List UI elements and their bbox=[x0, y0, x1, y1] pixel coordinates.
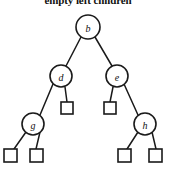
node-h-label: h bbox=[143, 120, 148, 131]
binary-tree-svg: b d e g h bbox=[0, 0, 176, 186]
edge-g-leaf-left bbox=[14, 132, 26, 149]
node-h: h bbox=[134, 113, 156, 135]
leaf-node-h-left bbox=[118, 149, 131, 162]
node-d: d bbox=[50, 65, 72, 87]
leaf-node-d-right bbox=[61, 102, 73, 114]
internal-nodes-group: b d e g h bbox=[22, 15, 156, 135]
edge-h-leaf-left bbox=[127, 132, 138, 149]
leaf-node-h-right bbox=[149, 149, 162, 162]
node-e: e bbox=[106, 65, 128, 87]
edge-e-h bbox=[124, 84, 138, 115]
leaf-node-e-left bbox=[104, 102, 116, 114]
node-b: b bbox=[76, 15, 100, 39]
edge-b-d bbox=[66, 37, 81, 66]
edge-d-g bbox=[40, 84, 53, 115]
edge-d-leaf-right bbox=[65, 87, 67, 102]
edge-b-e bbox=[95, 37, 112, 66]
node-e-label: e bbox=[115, 72, 120, 83]
edge-e-leaf-left bbox=[110, 87, 113, 102]
edge-h-leaf-right bbox=[152, 132, 156, 149]
node-g-label: g bbox=[31, 120, 36, 131]
tree-figure: empty left children b bbox=[0, 0, 176, 186]
node-g: g bbox=[22, 113, 44, 135]
node-b-label: b bbox=[86, 23, 91, 34]
leaf-node-g-right bbox=[30, 149, 43, 162]
leaf-node-g-left bbox=[4, 149, 17, 162]
